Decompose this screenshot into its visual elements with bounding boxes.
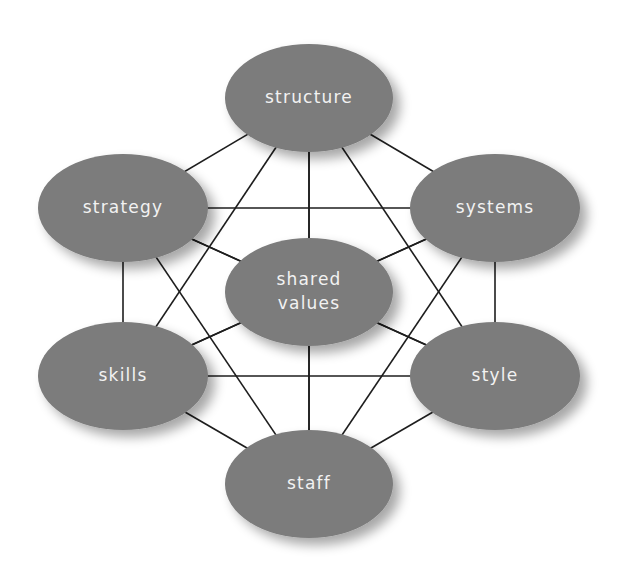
node-systems: systems	[410, 154, 580, 262]
node-label: systems	[456, 197, 535, 217]
node-skills: skills	[38, 322, 208, 430]
node-ellipse	[225, 238, 393, 346]
seven-s-diagram: structurestrategysystemssharedvaluesskil…	[0, 0, 619, 568]
node-label: values	[278, 293, 341, 313]
node-label: staff	[287, 473, 331, 493]
node-strategy: strategy	[38, 154, 208, 262]
node-label: structure	[265, 87, 353, 107]
node-label: style	[472, 365, 519, 385]
node-label: strategy	[83, 197, 164, 217]
nodes: structurestrategysystemssharedvaluesskil…	[38, 44, 580, 538]
node-shared-values: sharedvalues	[225, 238, 393, 346]
node-staff: staff	[225, 430, 393, 538]
node-label: skills	[99, 365, 148, 385]
node-style: style	[410, 322, 580, 430]
node-label: shared	[276, 269, 341, 289]
node-structure: structure	[225, 44, 393, 152]
